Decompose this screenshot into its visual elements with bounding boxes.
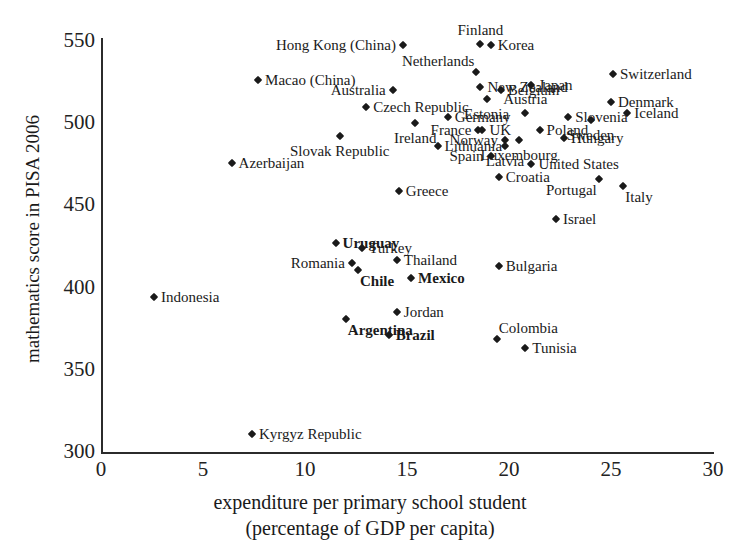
data-point-marker [248, 430, 256, 438]
data-point-marker [150, 293, 158, 301]
data-point-label: Netherlands [402, 54, 474, 69]
data-point-label: Kyrgyz Republic [259, 427, 362, 442]
scatter-chart-figure: 550500450400350300 051015202530 mathemat… [0, 0, 740, 557]
x-tick-label-15: 15 [387, 459, 427, 480]
data-point-label: Israel [563, 212, 596, 227]
x-axis-title-line1: expenditure per primary school student [213, 491, 526, 513]
data-point-label: United States [538, 157, 618, 172]
data-point-label: Jordan [404, 305, 444, 320]
x-tick-label-0: 0 [81, 459, 121, 480]
data-point-marker [552, 214, 560, 222]
data-point-label: Thailand [404, 253, 457, 268]
data-point-label: Colombia [499, 321, 558, 336]
data-point-label: Mexico [418, 271, 465, 286]
data-point-label: Chile [360, 274, 394, 289]
data-point-label: Romania [291, 256, 345, 271]
data-point-marker [476, 83, 484, 91]
data-point-marker [521, 344, 529, 352]
data-point-label: Bulgaria [506, 259, 558, 274]
data-point-label: Tunisia [532, 341, 576, 356]
data-point-label: Korea [498, 38, 535, 53]
data-point-label: Greece [406, 184, 448, 199]
data-point-marker [433, 142, 441, 150]
data-point-marker [493, 334, 501, 342]
data-point-marker [254, 76, 262, 84]
x-tick-label-5: 5 [183, 459, 223, 480]
data-point-marker [495, 173, 503, 181]
data-point-label: Indonesia [161, 290, 219, 305]
data-point-marker [486, 41, 494, 49]
data-point-marker [482, 94, 490, 102]
data-point-marker [388, 86, 396, 94]
x-tick-label-30: 30 [693, 459, 733, 480]
data-point-marker [348, 259, 356, 267]
data-point-marker [472, 68, 480, 76]
data-point-label: Switzerland [620, 67, 692, 82]
data-point-marker [393, 308, 401, 316]
data-point-marker [515, 135, 523, 143]
data-point-label: Slovak Republic [290, 144, 390, 159]
data-point-label: Azerbaijan [239, 156, 305, 171]
data-point-label: Hungary [571, 131, 624, 146]
data-point-label: Iceland [634, 106, 678, 121]
x-axis-title-line2: (percentage of GDP per capita) [0, 515, 740, 541]
data-point-marker [335, 132, 343, 140]
data-point-label: Italy [625, 190, 653, 205]
data-point-label: Spain [449, 149, 483, 164]
data-point-label: Australia [331, 83, 386, 98]
data-point-marker [495, 262, 503, 270]
data-point-label: Hong Kong (China) [276, 38, 396, 53]
data-point-marker [362, 103, 370, 111]
data-point-label: Austria [503, 92, 547, 107]
data-point-marker [411, 119, 419, 127]
data-point-marker [407, 273, 415, 281]
x-axis-line [101, 452, 714, 454]
data-point-marker [395, 186, 403, 194]
data-point-marker [476, 39, 484, 47]
x-tick-label-20: 20 [489, 459, 529, 480]
data-point-marker [393, 255, 401, 263]
data-point-marker [609, 70, 617, 78]
x-tick-label-25: 25 [591, 459, 631, 480]
data-point-marker [331, 239, 339, 247]
data-point-label: Brazil [396, 328, 435, 343]
y-axis-title: mathematics score in PISA 2006 [22, 74, 44, 404]
data-point-marker [535, 126, 543, 134]
data-point-marker [607, 98, 615, 106]
data-point-marker [227, 158, 235, 166]
plot-area: Hong Kong (China)FinlandKoreaSwitzerland… [101, 41, 713, 452]
data-point-label: Portugal [546, 183, 597, 198]
data-point-marker [521, 109, 529, 117]
x-tick-label-10: 10 [285, 459, 325, 480]
x-axis-title: expenditure per primary school student (… [0, 489, 740, 541]
data-point-marker [399, 41, 407, 49]
data-point-label: Finland [458, 23, 504, 38]
y-tick-label-550: 550 [33, 30, 95, 51]
data-point-label: Croatia [506, 170, 550, 185]
data-point-marker [564, 112, 572, 120]
